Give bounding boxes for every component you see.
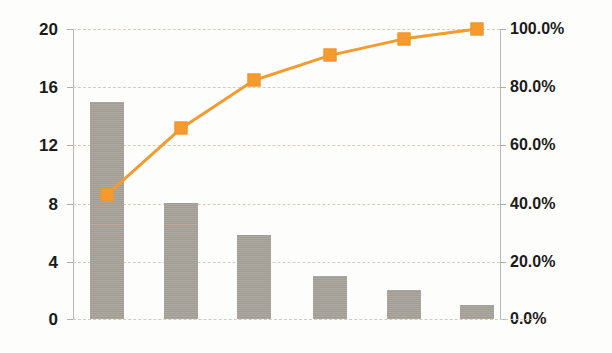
- y-axis-left-tick-label: 4: [0, 253, 58, 273]
- y-axis-right-tick: [500, 262, 506, 263]
- y-axis-right-tick: [500, 145, 506, 146]
- y-axis-right-tick-label: 80.0%: [510, 78, 555, 96]
- cumulative-marker: [248, 74, 261, 87]
- y-axis-left-tick-label: 16: [0, 78, 58, 98]
- cumulative-marker: [471, 23, 484, 36]
- cumulative-marker: [175, 122, 188, 135]
- pareto-chart: 20 16 12 8 4 0 100.0% 80.0% 60.0% 40.0% …: [0, 0, 612, 353]
- y-axis-right-tick-label: 60.0%: [510, 136, 555, 154]
- y-axis-right-tick: [500, 87, 506, 88]
- y-axis-right-tick: [500, 204, 506, 205]
- cumulative-line: [73, 29, 500, 319]
- y-axis-right-tick-label: 40.0%: [510, 195, 555, 213]
- y-axis-left-tick-label: 0: [0, 310, 58, 330]
- y-axis-left-tick-label: 12: [0, 136, 58, 156]
- cumulative-marker: [101, 188, 114, 201]
- cumulative-marker: [398, 32, 411, 45]
- plot-area: [73, 29, 500, 319]
- y-axis-left-tick-label: 8: [0, 195, 58, 215]
- y-axis-right-tick-label: 100.0%: [510, 20, 564, 38]
- x-axis-baseline: [73, 319, 533, 320]
- cumulative-marker: [324, 49, 337, 62]
- y-axis-right-tick-label: 20.0%: [510, 253, 555, 271]
- y-axis-right-tick: [500, 29, 506, 30]
- y-axis-left-tick-label: 20: [0, 20, 58, 40]
- y-axis-right-line: [500, 29, 501, 320]
